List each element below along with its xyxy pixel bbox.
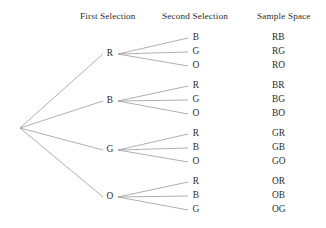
- sample-space-outcome-br: BR: [272, 80, 285, 90]
- first-selection-node-r: R: [104, 48, 116, 58]
- column-header-sample-space: Sample Space: [257, 11, 311, 21]
- sample-space-outcome-ro: RO: [272, 60, 285, 70]
- branch-root-to-o: [20, 128, 103, 197]
- branch-b-to-o: [118, 101, 188, 114]
- branch-root-to-g: [20, 128, 103, 150]
- sample-space-outcome-go: GO: [272, 156, 286, 166]
- first-selection-node-b: B: [104, 95, 116, 105]
- sample-space-outcome-bo: BO: [272, 108, 285, 118]
- column-header-second-selection: Second Selection: [162, 11, 228, 21]
- sample-space-outcome-rb: RB: [272, 32, 285, 42]
- second-selection-node-bg: G: [190, 94, 202, 104]
- branch-r-to-o: [118, 54, 188, 66]
- sample-space-outcome-rg: RG: [272, 46, 285, 56]
- second-selection-node-gr: R: [190, 128, 202, 138]
- second-selection-node-rb: B: [190, 32, 202, 42]
- branch-r-to-g: [118, 52, 188, 54]
- second-selection-node-br: R: [190, 80, 202, 90]
- branch-g-to-r: [118, 134, 188, 150]
- first-selection-node-g: G: [104, 144, 116, 154]
- branch-g-to-b: [118, 148, 188, 150]
- branch-b-to-g: [118, 100, 188, 101]
- branch-root-to-b: [20, 101, 103, 128]
- second-selection-node-gb: B: [190, 142, 202, 152]
- first-selection-node-o: O: [104, 191, 116, 201]
- second-selection-node-go: O: [190, 156, 202, 166]
- second-selection-node-ro: O: [190, 60, 202, 70]
- sample-space-outcome-gb: GB: [272, 142, 285, 152]
- sample-space-outcome-ob: OB: [272, 190, 285, 200]
- branch-o-to-g: [118, 197, 188, 210]
- branch-root-to-r: [20, 54, 103, 128]
- column-header-first-selection: First Selection: [80, 11, 136, 21]
- second-selection-node-or: R: [190, 176, 202, 186]
- sample-space-outcome-bg: BG: [272, 94, 285, 104]
- branch-g-to-o: [118, 150, 188, 162]
- tree-diagram-page: First Selection Second Selection Sample …: [0, 0, 326, 228]
- second-selection-node-ob: B: [190, 190, 202, 200]
- second-selection-node-og: G: [190, 204, 202, 214]
- branch-o-to-r: [118, 182, 188, 197]
- second-selection-node-bo: O: [190, 108, 202, 118]
- branch-b-to-r: [118, 86, 188, 101]
- second-selection-node-rg: G: [190, 46, 202, 56]
- sample-space-outcome-gr: GR: [272, 128, 285, 138]
- branch-o-to-b: [118, 196, 188, 197]
- sample-space-outcome-og: OG: [272, 204, 286, 214]
- branch-r-to-b: [118, 38, 188, 54]
- sample-space-outcome-or: OR: [272, 176, 285, 186]
